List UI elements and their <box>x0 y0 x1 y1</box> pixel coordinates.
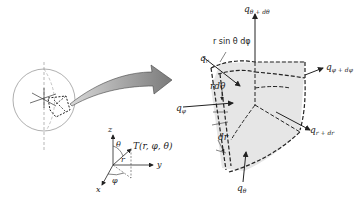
axis-label-x: x <box>96 186 101 194</box>
label-r-sin-theta-dphi: r sin θ dφ <box>213 38 251 46</box>
label-q-r-dr: qr + dr <box>310 126 334 136</box>
label-r-dtheta: rdθ <box>210 82 225 91</box>
label-q-theta-dtheta: qθ + dθ <box>244 5 270 15</box>
point-label-T: T(r, φ, θ) <box>133 142 173 151</box>
label-q-phi-dphi: qφ + dφ <box>326 63 353 73</box>
axis-label-y: y <box>157 161 162 169</box>
label-q-phi: qφ <box>176 104 186 114</box>
axis-label-z: z <box>108 126 112 134</box>
angle-label-theta: θ <box>116 141 121 149</box>
label-q-r: qr <box>200 54 209 64</box>
spherical-heat-flux-diagram: qθ + dθ r sin θ dφ qr qφ + dφ rdθ qφ qr … <box>0 0 358 205</box>
sphere <box>13 62 75 150</box>
angle-label-phi: φ <box>112 177 118 185</box>
differential-element <box>211 61 305 172</box>
label-dr: dr <box>218 133 228 142</box>
label-q-theta: qθ <box>237 184 246 194</box>
radius-label-r: r <box>121 156 125 164</box>
zoom-arrow <box>70 65 172 106</box>
